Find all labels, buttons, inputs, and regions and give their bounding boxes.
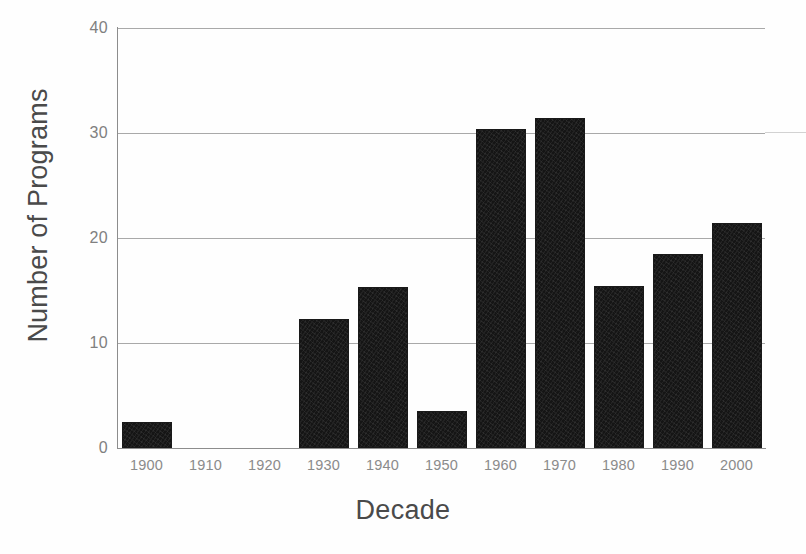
x-tick-label: 2000 — [707, 458, 766, 473]
x-axis-title: Decade — [0, 495, 806, 526]
x-tick-label: 1930 — [294, 458, 353, 473]
x-tick-label: 1940 — [353, 458, 412, 473]
x-tick-label: 1900 — [117, 458, 176, 473]
y-tick-label: 0 — [74, 440, 108, 456]
x-tick-label: 1960 — [471, 458, 530, 473]
x-tick-label: 1920 — [235, 458, 294, 473]
x-tick-label: 1990 — [648, 458, 707, 473]
x-tick-label: 1950 — [412, 458, 471, 473]
bar-chart-figure: 010203040 190019101920193019401950196019… — [0, 0, 806, 554]
y-tick-label: 40 — [74, 20, 108, 36]
y-axis-title: Number of Programs — [23, 56, 54, 376]
y-tick-label: 10 — [74, 335, 108, 351]
x-tick-label: 1980 — [589, 458, 648, 473]
x-axis-ticks: 1900191019201930194019501960197019801990… — [117, 0, 766, 554]
y-tick-label: 20 — [74, 230, 108, 246]
x-tick-label: 1910 — [176, 458, 235, 473]
y-axis-ticks: 010203040 — [72, 0, 108, 554]
y-tick-label: 30 — [74, 125, 108, 141]
x-tick-label: 1970 — [530, 458, 589, 473]
gridline-overshoot — [765, 132, 806, 133]
